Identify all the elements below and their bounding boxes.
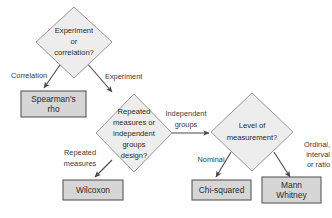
result-label-line: Spearman's bbox=[31, 94, 75, 104]
edge-label-line: Ordinal, bbox=[304, 140, 330, 149]
edge-label-line: Nominal bbox=[197, 155, 224, 164]
edge-label-line: Repeated bbox=[64, 148, 96, 157]
edge-label-line: Independent bbox=[165, 109, 206, 118]
edge-label-experiment: Experiment bbox=[105, 72, 142, 81]
decision-label-line: independent bbox=[113, 129, 156, 138]
decision-experiment-or-correlation[interactable]: Experiment or correlation? bbox=[36, 7, 112, 78]
decision-label-line: or bbox=[71, 37, 78, 46]
decision-label-line: Level of bbox=[239, 121, 266, 130]
edge-label-line: Correlation bbox=[11, 71, 47, 80]
edge-label-line: measures bbox=[64, 159, 97, 168]
edge-label-line: interval bbox=[306, 150, 330, 159]
edge-label-nominal: Nominal bbox=[197, 155, 224, 164]
result-chi-squared[interactable]: Chi-squared bbox=[192, 180, 251, 200]
edge-label-ordinal-interval-ratio: Ordinal, interval or ratio bbox=[304, 140, 330, 169]
edge-label-line: Experiment bbox=[105, 72, 142, 81]
edge-label-correlation: Correlation bbox=[11, 71, 47, 80]
decision-label-line: Experiment bbox=[55, 26, 94, 35]
decision-repeated-or-independent[interactable]: Repeated measures or independent groups … bbox=[96, 94, 172, 172]
result-mann-whitney[interactable]: Mann Whitney bbox=[262, 177, 321, 203]
result-label-line: Whitney bbox=[276, 190, 307, 200]
connector-level-to-mann-whitney bbox=[274, 152, 290, 177]
result-wilcoxon[interactable]: Wilcoxon bbox=[63, 180, 123, 200]
edge-label-repeated-measures: Repeated measures bbox=[64, 148, 97, 168]
connector-repeated-to-wilcoxon bbox=[95, 160, 112, 177]
decision-label-line: measurement? bbox=[227, 133, 278, 142]
decision-label-line: Repeated bbox=[118, 107, 151, 116]
result-label-line: Wilcoxon bbox=[76, 185, 110, 195]
result-label-line: Chi-squared bbox=[199, 185, 245, 195]
flowchart-canvas: Experiment or correlation? Repeated meas… bbox=[0, 0, 332, 218]
decision-label-line: measures or bbox=[113, 118, 156, 127]
result-label-line: rho bbox=[47, 104, 59, 114]
decision-label-line: groups bbox=[122, 140, 145, 149]
decision-label-line: design? bbox=[121, 151, 148, 160]
result-spearmans-rho[interactable]: Spearman's rho bbox=[21, 91, 86, 117]
edge-label-line: or ratio bbox=[307, 160, 330, 169]
result-label-line: Mann bbox=[281, 180, 302, 190]
edge-label-line: groups bbox=[175, 120, 198, 129]
decision-label-line: correlation? bbox=[54, 48, 94, 57]
edge-label-independent-groups: Independent groups bbox=[165, 109, 206, 129]
flowchart-container: Experiment or correlation? Repeated meas… bbox=[0, 0, 332, 218]
